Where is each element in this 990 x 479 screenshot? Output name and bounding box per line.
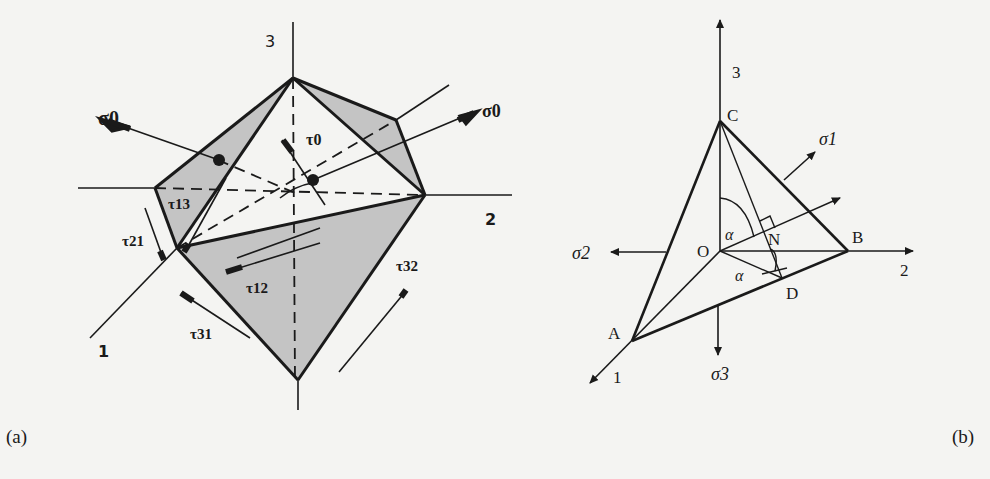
sigma0-arrowheads bbox=[100, 111, 478, 152]
sigma3-label: σ3 bbox=[711, 364, 729, 384]
figure-page: 3 2 1 σ0 σ0 τ0 τ13 τ21 τ12 τ31 τ32 bbox=[0, 0, 990, 479]
tau21-label: τ21 bbox=[122, 233, 144, 249]
tau0-label: τ0 bbox=[306, 131, 321, 148]
axis-3-label: 3 bbox=[265, 32, 275, 51]
point-B-label: B bbox=[852, 228, 863, 247]
panel-a-diagram: 3 2 1 σ0 σ0 τ0 τ13 τ21 τ12 τ31 τ32 bbox=[78, 22, 512, 410]
axis-3-label-b: 3 bbox=[732, 63, 741, 82]
sigma1-arrow bbox=[784, 152, 815, 180]
sigma1-label: σ1 bbox=[819, 129, 837, 149]
panel-b-diagram: 3 2 1 C B A O N D α α σ1 σ2 σ3 bbox=[572, 20, 913, 387]
axis-2-label: 2 bbox=[485, 210, 496, 229]
stress-arrows-panel-b bbox=[611, 152, 815, 355]
axis-2-label-b: 2 bbox=[900, 261, 909, 280]
axis-1-line bbox=[90, 248, 177, 338]
alpha-bottom-label: α bbox=[735, 267, 744, 284]
axis-1-label: 1 bbox=[98, 342, 109, 361]
axis-upper-right-line bbox=[396, 85, 449, 120]
point-C-label: C bbox=[727, 106, 738, 125]
panel-a-caption: (a) bbox=[6, 426, 27, 448]
tau12-label: τ12 bbox=[246, 280, 268, 296]
point-O-label: O bbox=[697, 242, 709, 261]
figure-svg: 3 2 1 σ0 σ0 τ0 τ13 τ21 τ12 τ31 τ32 bbox=[0, 0, 990, 479]
sigma0-point-left bbox=[213, 154, 225, 166]
axis-1-arrow bbox=[590, 251, 720, 383]
point-A-label: A bbox=[608, 324, 621, 343]
alpha-top-label: α bbox=[725, 226, 734, 243]
sigma0-right-label: σ0 bbox=[482, 101, 501, 121]
sigma0-left-label: σ0 bbox=[98, 107, 119, 129]
sigma0-point-right bbox=[307, 174, 319, 186]
point-D-label: D bbox=[786, 284, 798, 303]
tau32-label: τ32 bbox=[396, 258, 418, 274]
point-N-label: N bbox=[768, 230, 780, 249]
sigma2-label: σ2 bbox=[572, 243, 590, 263]
axis-1-label-b: 1 bbox=[613, 368, 622, 387]
panel-b-caption: (b) bbox=[952, 426, 974, 448]
tau13-label: τ13 bbox=[168, 196, 190, 212]
tau31-label: τ31 bbox=[190, 326, 212, 342]
